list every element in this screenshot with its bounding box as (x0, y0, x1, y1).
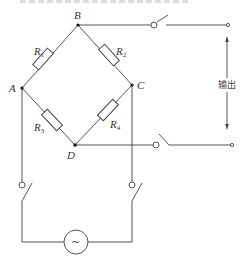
supply-right-branch (129, 85, 142, 242)
node-label-a: A (8, 82, 16, 94)
switch-blade-bottom (159, 134, 169, 145)
resistor-r3 (42, 109, 63, 131)
resistor-label-r1: R1 (33, 45, 45, 59)
arm-c-d (75, 85, 132, 145)
switch-blade-top (157, 15, 168, 22)
resistor-label-r2: R2 (115, 45, 127, 59)
node-label-d: D (66, 149, 75, 161)
output-top-line (78, 15, 230, 28)
output-bottom-line (75, 134, 234, 148)
node-label-b: B (74, 9, 81, 21)
output-terminal-bottom (230, 143, 233, 146)
bridge-circuit-diagram: 输出 ~ B A C D R1 R2 R3 R4 (0, 0, 245, 270)
node-label-c: C (137, 79, 145, 91)
resistor-label-r3: R3 (33, 121, 45, 135)
node-c-dot (130, 83, 133, 86)
switch-terminal-top (151, 22, 157, 28)
output-terminal-top (226, 23, 229, 26)
arm-a-b (22, 25, 78, 88)
ac-source-symbol: ~ (71, 236, 80, 249)
switch-terminal-right (129, 182, 135, 188)
resistor-label-r4: R4 (109, 118, 121, 132)
switch-terminal-bottom (153, 142, 159, 148)
output-label: 输出 (218, 79, 236, 90)
switch-terminal-left (19, 182, 25, 188)
node-a-dot (20, 86, 23, 89)
node-b-dot (76, 23, 79, 26)
supply-left-branch (19, 88, 32, 242)
node-d-dot (74, 144, 77, 147)
arm-a-d (22, 88, 75, 145)
